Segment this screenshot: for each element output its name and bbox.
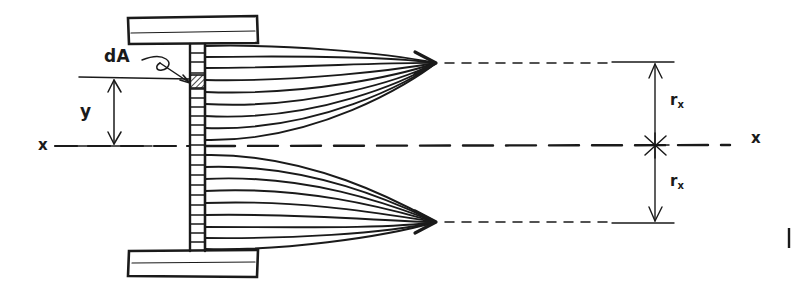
stress-distribution-lower bbox=[205, 153, 436, 250]
label-rx-upper-subscript: x bbox=[677, 99, 683, 110]
projection-line-lower bbox=[445, 222, 674, 223]
centroid-marker bbox=[642, 133, 669, 158]
neutral-axis-centerline bbox=[55, 145, 730, 146]
label-x-left: x bbox=[38, 138, 48, 153]
stress-distribution-upper bbox=[205, 45, 436, 142]
label-rx-lower-subscript: x bbox=[677, 180, 683, 191]
label-rx-upper: rx bbox=[670, 93, 684, 108]
rx-dimension-upper bbox=[649, 64, 662, 144]
label-y: y bbox=[80, 103, 91, 120]
label-rx-lower: rx bbox=[670, 174, 684, 189]
top-flange bbox=[128, 16, 258, 44]
label-x-right: x bbox=[751, 131, 761, 146]
label-dA: dA bbox=[104, 48, 130, 65]
dA-element bbox=[190, 75, 205, 88]
bottom-flange bbox=[128, 250, 258, 277]
projection-line-upper bbox=[445, 62, 674, 63]
diagram-canvas bbox=[0, 0, 798, 284]
engineering-diagram: dA y x x rx rx bbox=[0, 0, 798, 284]
